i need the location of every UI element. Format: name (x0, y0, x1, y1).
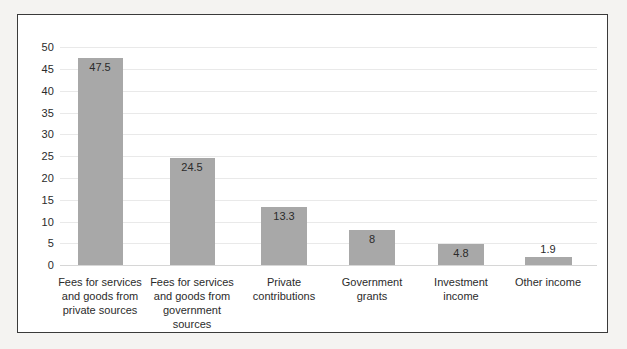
y-tick-label: 20 (18, 172, 54, 184)
bar-other-income[interactable] (525, 257, 572, 265)
y-tick-label: 5 (18, 237, 54, 249)
y-tick-label: 25 (18, 150, 54, 162)
chart-figure: 50 45 40 35 30 25 20 15 10 5 0 47.5 24.5… (17, 14, 608, 333)
chart-plot-area: 50 45 40 35 30 25 20 15 10 5 0 47.5 24.5… (18, 15, 609, 334)
y-tick-label: 35 (18, 107, 54, 119)
y-tick-label: 50 (18, 41, 54, 53)
y-tick-label: 40 (18, 85, 54, 97)
x-axis-label-line: government (132, 303, 252, 317)
y-tick-label: 10 (18, 216, 54, 228)
x-axis-label-line: sources (132, 317, 252, 331)
gridline-45 (60, 69, 597, 70)
bar-fees-government-sources[interactable] (170, 158, 215, 265)
gridline-5 (60, 243, 597, 244)
bar-value-label: 4.8 (453, 247, 468, 259)
gridline-15 (60, 200, 597, 201)
bar-value-label: 24.5 (181, 161, 202, 173)
y-tick-label: 30 (18, 128, 54, 140)
y-tick-label: 0 (18, 259, 54, 271)
y-tick-label: 45 (18, 63, 54, 75)
gridline-30 (60, 134, 597, 135)
x-axis-label-other-income: Other income (493, 275, 603, 289)
bar-fees-private-sources[interactable] (78, 58, 123, 265)
bar-value-label: 47.5 (89, 61, 110, 73)
x-axis-label-line: income (406, 289, 516, 303)
gridline-40 (60, 91, 597, 92)
gridline-20 (60, 178, 597, 179)
gridline-25 (60, 156, 597, 157)
gridline-0 (60, 265, 597, 266)
y-tick-label: 15 (18, 194, 54, 206)
bar-value-label: 8 (369, 233, 375, 245)
bar-value-label: 1.9 (540, 243, 555, 255)
x-axis-label-line: Other income (493, 275, 603, 289)
gridline-35 (60, 113, 597, 114)
gridline-50 (60, 47, 597, 48)
gridline-10 (60, 222, 597, 223)
bar-value-label: 13.3 (273, 210, 294, 222)
